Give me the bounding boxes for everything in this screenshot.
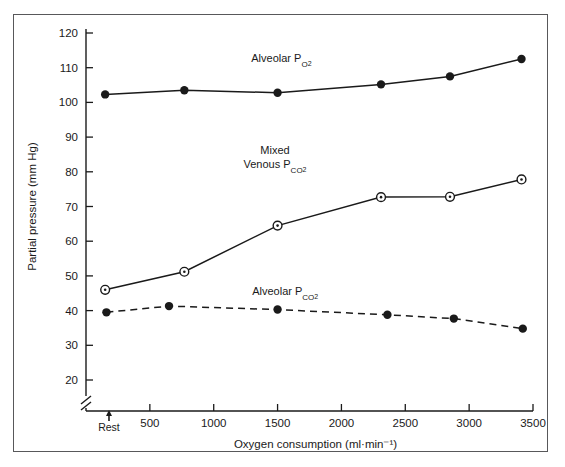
data-point bbox=[383, 311, 391, 319]
figure-frame: 2030405060708090100110120500100015002000… bbox=[13, 14, 548, 452]
series-label-mixed-venous-pco2: MixedVenous PCO2 bbox=[244, 144, 307, 175]
y-axis-title: Partial pressure (mm Hg) bbox=[26, 142, 38, 271]
data-point bbox=[101, 90, 109, 98]
series-label-alveolar-po2: Alveolar PO2 bbox=[251, 52, 311, 68]
y-tick-label-90: 90 bbox=[65, 131, 78, 143]
y-tick-label-100: 100 bbox=[59, 96, 78, 108]
y-tick-label-80: 80 bbox=[65, 166, 78, 178]
series-3 bbox=[102, 302, 527, 333]
data-point bbox=[450, 314, 458, 322]
series-group bbox=[101, 55, 527, 333]
x-tick-label-2500: 2500 bbox=[392, 417, 418, 429]
data-point-center bbox=[104, 288, 107, 291]
y-tick-label-60: 60 bbox=[65, 235, 78, 247]
data-point bbox=[102, 308, 110, 316]
data-point-center bbox=[183, 270, 186, 273]
x-axis-title: Oxygen consumption (ml·min⁻¹) bbox=[234, 438, 397, 450]
data-point bbox=[273, 88, 281, 96]
y-tick-label-30: 30 bbox=[65, 339, 78, 351]
data-point bbox=[446, 72, 454, 80]
x-tick-label-500: 500 bbox=[140, 417, 159, 429]
figure-container: 2030405060708090100110120500100015002000… bbox=[0, 0, 565, 467]
data-point-center bbox=[520, 178, 523, 181]
data-point-center bbox=[449, 195, 452, 198]
data-point bbox=[517, 55, 525, 63]
x-tick-label-3500: 3500 bbox=[520, 417, 546, 429]
data-point bbox=[165, 302, 173, 310]
data-point bbox=[519, 324, 527, 332]
data-point bbox=[377, 80, 385, 88]
series-2 bbox=[101, 175, 526, 294]
y-tick-label-70: 70 bbox=[65, 201, 78, 213]
y-tick-label-120: 120 bbox=[59, 27, 78, 39]
axis-break-marker bbox=[81, 396, 91, 410]
chart-canvas: 2030405060708090100110120500100015002000… bbox=[14, 15, 546, 450]
y-tick-label-50: 50 bbox=[65, 270, 78, 282]
series-1 bbox=[101, 55, 526, 99]
data-point bbox=[180, 86, 188, 94]
series-line-2 bbox=[105, 179, 521, 289]
x-tick-label-1000: 1000 bbox=[201, 417, 227, 429]
x-tick-label-2000: 2000 bbox=[329, 417, 355, 429]
y-tick-label-20: 20 bbox=[65, 374, 78, 386]
series-label-alveolar-pco2: Alveolar PCO2 bbox=[252, 285, 318, 302]
y-tick-label-110: 110 bbox=[60, 62, 78, 74]
y-tick-label-40: 40 bbox=[65, 305, 78, 317]
data-point-center bbox=[380, 196, 383, 199]
x-tick-label-1500: 1500 bbox=[265, 417, 291, 429]
data-point-center bbox=[276, 224, 279, 227]
x-tick-label-3000: 3000 bbox=[456, 417, 482, 429]
series-line-1 bbox=[105, 59, 521, 94]
data-point bbox=[273, 305, 281, 313]
rest-label: Rest bbox=[98, 421, 120, 433]
